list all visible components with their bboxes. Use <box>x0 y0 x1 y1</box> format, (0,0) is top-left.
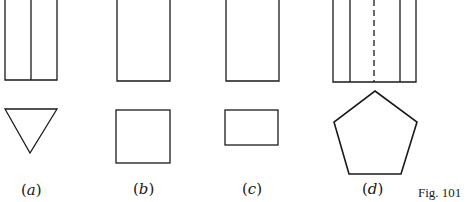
figure-101: (a) (b) (c) (d) Fig. 101 <box>0 0 467 202</box>
panel-c-elevation <box>226 0 279 81</box>
panel-a-label: (a) <box>21 181 42 199</box>
figure-caption: Fig. 101 <box>418 185 461 201</box>
panel-b-plan-square <box>116 110 170 163</box>
orthographic-projections <box>0 0 467 202</box>
panel-b-label: (b) <box>133 180 154 198</box>
panel-d-elevation <box>333 0 416 82</box>
panel-c-label: (c) <box>242 180 262 198</box>
panel-a-plan-triangle <box>5 109 57 153</box>
panel-d-plan-pentagon <box>334 91 417 174</box>
panel-b-elevation <box>117 0 170 81</box>
panel-c-plan-rectangle <box>225 110 278 145</box>
panel-a-elevation <box>5 0 57 80</box>
panel-d-label: (d) <box>362 180 383 198</box>
